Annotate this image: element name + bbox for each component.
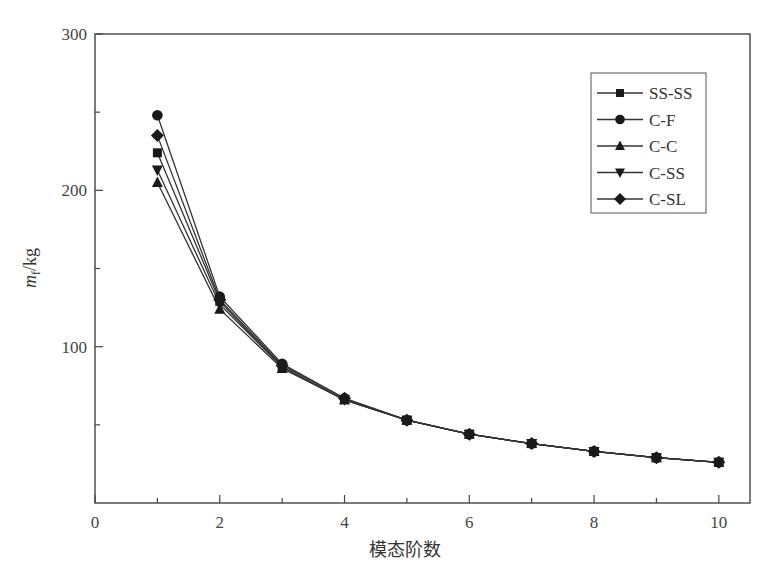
legend-label: C-F <box>649 111 675 130</box>
diamond-marker-icon <box>588 445 601 458</box>
circle-marker-icon <box>152 110 163 121</box>
legend-label: SS-SS <box>649 84 692 103</box>
x-tick-label: 4 <box>340 513 349 532</box>
legend-label: C-C <box>649 137 677 156</box>
legend: SS-SSC-FC-CC-SSC-SL <box>591 73 706 213</box>
y-tick-label: 300 <box>62 25 88 44</box>
x-tick-label: 10 <box>710 513 727 532</box>
diamond-marker-icon <box>400 414 413 427</box>
square-marker-icon <box>153 148 162 157</box>
square-icon <box>616 89 624 97</box>
diamond-marker-icon <box>151 129 164 142</box>
triangle-down-marker-icon <box>152 166 163 177</box>
x-tick-label: 2 <box>216 513 225 532</box>
x-axis-title: 模态阶数 <box>369 540 441 560</box>
diamond-marker-icon <box>463 428 476 441</box>
diamond-marker-icon <box>712 456 725 469</box>
svg-text:mf/kg: mf/kg <box>20 248 43 288</box>
legend-label: C-SL <box>649 190 686 209</box>
diamond-marker-icon <box>650 451 663 464</box>
y-tick-label: 100 <box>62 338 88 357</box>
circle-icon <box>615 115 625 125</box>
legend-label: C-SS <box>649 164 685 183</box>
x-tick-label: 0 <box>91 513 100 532</box>
line-chart: 0246810100200300 模态阶数 mf/kg SS-SSC-FC-CC… <box>0 0 771 588</box>
diamond-marker-icon <box>525 437 538 450</box>
x-tick-label: 6 <box>465 513 474 532</box>
x-tick-label: 8 <box>590 513 599 532</box>
y-axis-title: mf/kg <box>20 248 43 288</box>
y-tick-label: 200 <box>62 181 88 200</box>
series-line-c-ss <box>157 170 718 462</box>
